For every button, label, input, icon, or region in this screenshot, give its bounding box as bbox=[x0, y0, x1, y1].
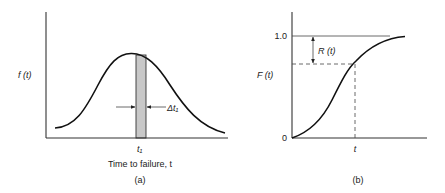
caption-b: (b) bbox=[353, 175, 364, 185]
y-tick-0: 0 bbox=[282, 133, 287, 143]
caption-a: (a) bbox=[135, 175, 146, 185]
reliability-figure: Δt₁ f (t) t₁ Time to failure, t (a) R (t… bbox=[0, 0, 445, 193]
delta-t1-label: Δt₁ bbox=[166, 103, 179, 113]
t1-tick-label: t₁ bbox=[137, 144, 143, 154]
r-t-label: R (t) bbox=[318, 46, 336, 56]
y-label-b: F (t) bbox=[257, 70, 273, 80]
t-tick-label: t bbox=[354, 144, 357, 154]
x-label-a: Time to failure, t bbox=[108, 159, 173, 169]
y-tick-1: 1.0 bbox=[274, 31, 287, 41]
panel-b: R (t) 1.0 0 F (t) t (b) bbox=[257, 12, 427, 185]
panel-a: Δt₁ f (t) t₁ Time to failure, t (a) bbox=[18, 12, 228, 185]
shaded-interval-bar bbox=[136, 55, 146, 138]
cumulative-curve bbox=[292, 37, 405, 139]
y-label-a: f (t) bbox=[18, 70, 32, 80]
